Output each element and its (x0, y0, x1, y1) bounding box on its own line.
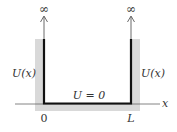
right-potential-label: U(x) (141, 67, 165, 80)
right-infinity-label: ∞ (126, 2, 136, 16)
inside-potential-label: U = 0 (73, 89, 105, 102)
left-wall-shade (35, 39, 44, 111)
x-axis-label: x (162, 97, 169, 110)
infinite-square-well-diagram: ∞ ∞ U(x) U(x) U = 0 x 0 L (0, 0, 177, 132)
left-infinity-label: ∞ (39, 2, 49, 16)
right-wall-shade (131, 39, 140, 111)
right-tick-label: L (126, 112, 134, 125)
left-potential-label: U(x) (12, 67, 36, 80)
floor-shade (35, 104, 140, 111)
origin-tick-label: 0 (41, 112, 48, 125)
